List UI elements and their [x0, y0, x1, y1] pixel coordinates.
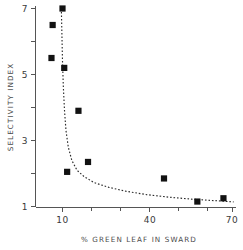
data-point [220, 195, 226, 201]
data-point [194, 198, 200, 204]
data-point [64, 169, 70, 175]
data-point [50, 22, 56, 28]
y-tick-label-3: 3 [22, 136, 28, 146]
x-axis-group: 10 40 70 % GREEN LEAF IN SWARD [36, 208, 239, 245]
x-axis-title: % GREEN LEAF IN SWARD [81, 235, 197, 244]
y-axis-title: SELECTIVITY INDEX [6, 63, 15, 151]
data-point [59, 5, 65, 11]
scatter-plot-figure: 7 5 3 1 SELECTIVITY INDEX 10 40 70 % GRE… [0, 0, 243, 250]
data-point [48, 55, 54, 61]
x-axis-ticks [63, 208, 233, 213]
data-point [61, 65, 67, 71]
plot-canvas: 7 5 3 1 SELECTIVITY INDEX 10 40 70 % GRE… [0, 0, 243, 250]
x-tick-label-40: 40 [144, 215, 156, 225]
data-point [75, 108, 81, 114]
y-tick-label-7: 7 [22, 4, 28, 14]
x-tick-label-70: 70 [226, 215, 238, 225]
y-tick-label-1: 1 [22, 202, 28, 212]
y-tick-label-5: 5 [22, 70, 28, 80]
fitted-curve [61, 9, 233, 202]
data-point [161, 175, 167, 181]
y-axis-ticks [31, 9, 36, 207]
data-point-group [48, 5, 226, 204]
data-point [85, 159, 91, 165]
x-tick-label-10: 10 [56, 215, 68, 225]
y-axis-group: 7 5 3 1 SELECTIVITY INDEX [6, 4, 36, 212]
